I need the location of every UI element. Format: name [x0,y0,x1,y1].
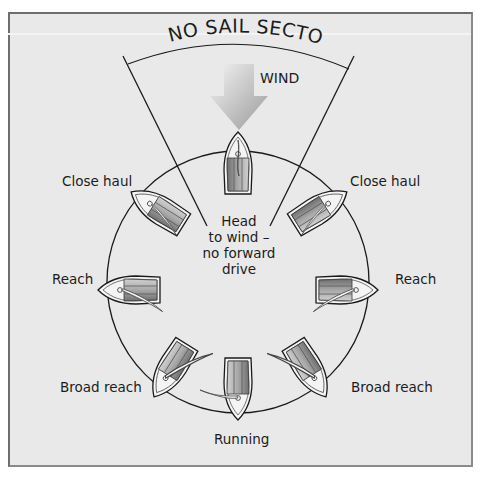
label-close-haul-left: Close haul [62,173,132,189]
boat-close-haul-right [287,180,354,237]
svg-text:Head: Head [221,213,256,229]
no-sail-sector: NO SAIL SECTOR [0,0,354,226]
boat-broad-reach-right [267,332,338,411]
svg-text:to wind –: to wind – [209,229,270,245]
no-sail-sector-title: NO SAIL SECTOR [0,0,326,48]
label-running: Running [214,431,269,447]
label-reach-right: Reach [395,271,436,287]
label-broad-reach-left: Broad reach [60,379,142,395]
points-of-sail-diagram: NO SAIL SECTOR WIND Head to wind – no fo… [0,0,480,478]
svg-text:drive: drive [222,261,256,277]
wind-label: WIND [260,70,299,86]
boat-head-to-wind [224,132,252,194]
svg-text:no forward: no forward [203,245,276,261]
label-close-haul-right: Close haul [350,173,420,189]
label-reach-left: Reach [52,271,93,287]
boat-reach-left [98,276,163,312]
boat-reach-right [313,276,378,312]
boat-running [200,358,252,420]
boat-broad-reach-left [142,332,213,411]
head-to-wind-text: Head to wind – no forward drive [203,213,276,277]
boat-close-haul-left [124,180,191,237]
label-broad-reach-right: Broad reach [351,379,433,395]
